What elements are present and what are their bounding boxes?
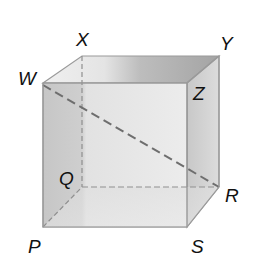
label-w: W <box>18 68 38 89</box>
label-p: P <box>28 236 41 257</box>
label-s: S <box>191 236 204 257</box>
cube-diagram: X Y W Z Q R P S <box>0 0 264 274</box>
label-z: Z <box>192 83 206 104</box>
label-r: R <box>225 185 239 206</box>
label-x: X <box>75 29 90 50</box>
label-q: Q <box>59 168 74 189</box>
label-y: Y <box>220 33 234 54</box>
